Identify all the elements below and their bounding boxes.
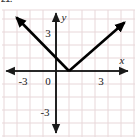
y-tick-label-3: 3 — [45, 27, 51, 39]
x-axis-label: x — [119, 54, 125, 66]
origin-label: 0 — [45, 75, 51, 87]
y-tick-label-neg3: -3 — [40, 106, 50, 118]
coordinate-plane-svg: -3 0 3 3 -3 x y — [0, 0, 135, 140]
x-tick-label-neg3: -3 — [18, 75, 28, 87]
problem-number-label: 21. — [1, 0, 23, 2]
y-axis-label: y — [61, 11, 67, 23]
graph-figure: 21. — [0, 0, 135, 140]
x-tick-label-3: 3 — [98, 75, 104, 87]
